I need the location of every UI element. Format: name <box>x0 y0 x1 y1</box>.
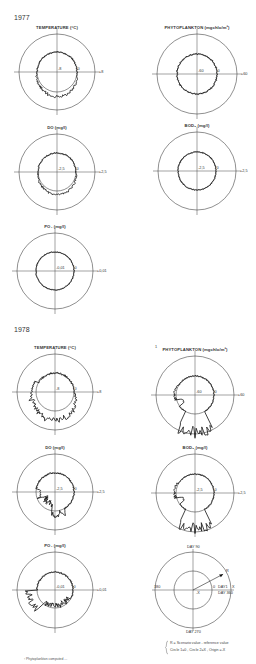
axis-label-negative: -8 <box>56 387 59 391</box>
polar-plot-t78 <box>12 349 98 435</box>
plot-title: PHYTOPLANKTON (mgchlo/m³) <box>162 347 227 352</box>
polar-plot-b78 <box>151 449 239 537</box>
axis-label-zero: 0 <box>75 266 77 270</box>
axis-label-positive: +2,5 <box>99 170 107 174</box>
axis-label-positive: +2,5 <box>238 491 246 495</box>
data-curve <box>25 571 73 611</box>
axis-label-negative: -2,5 <box>198 166 205 170</box>
polar-plot-p78 <box>151 351 239 439</box>
plot-title: PO₄ (mg/l) <box>44 543 66 548</box>
plot-title: PHYTOPLANKTON (mgchlo/m³) <box>164 25 229 30</box>
axis-label-zero: 0 <box>77 167 79 171</box>
axis-label-positive: +2,5 <box>240 169 248 173</box>
legend-day180: 180 <box>154 585 160 589</box>
axis-label-positive: +0,01 <box>97 588 107 592</box>
axis-label-zero: 0 <box>217 166 219 170</box>
axis-label-positive: +60 <box>238 393 244 397</box>
polar-plot-p77 <box>152 29 242 119</box>
axis-label-positive: +8 <box>97 390 101 394</box>
axis-label-negative: -60 <box>198 69 204 73</box>
axis-label-negative: -8 <box>58 67 61 71</box>
plot-title: BOD₅ (mg/l) <box>183 445 208 450</box>
legend-day1: DAY1 <box>218 585 228 589</box>
plot-title: PO₄ (mg/l) <box>44 224 66 229</box>
axis-label-negative: -0,01 <box>56 585 65 589</box>
axis-label-zero: 0 <box>215 488 217 492</box>
plot-title: BOD₅ (mg/l) <box>185 123 210 128</box>
axis-label-zero: 0 <box>75 387 77 391</box>
axis-label-positive: +2,5 <box>97 490 105 494</box>
polar-plot-d78 <box>12 449 98 535</box>
data-curve <box>29 372 77 422</box>
plot-title: DO (mg/l) <box>45 445 65 450</box>
legend-note-2: Circle 1=0 , Circle 2=X , Origin =-X <box>170 648 225 652</box>
axis-label-zero: 0 <box>75 487 77 491</box>
legend-r: R <box>226 569 229 573</box>
axis-label-negative: -2,5 <box>56 487 63 491</box>
plot-title: TEMPERATURE (°C) <box>36 25 78 30</box>
legend-brace <box>166 641 169 654</box>
axis-label-negative: -2,5 <box>196 488 203 492</box>
polar-plot-o77 <box>12 228 98 314</box>
legend-day270: DAY 270 <box>186 630 201 634</box>
axis-label-negative: -2,5 <box>58 167 65 171</box>
plot-title: DO (mg/l) <box>47 125 67 130</box>
axis-label-zero: 0 <box>78 67 80 71</box>
polar-plot-d77 <box>14 129 100 215</box>
axis-label-positive: +0,01 <box>97 269 107 273</box>
footnote-mark: 1 <box>155 345 157 349</box>
axis-label-zero: 0 <box>74 585 76 589</box>
footnote: ¹ Phytoplankton computed ... <box>24 657 67 661</box>
axis-label-negative: -60 <box>196 390 202 394</box>
data-curve <box>174 474 215 534</box>
polar-plot-b77 <box>153 127 241 215</box>
polar-plots <box>0 0 256 664</box>
polar-plot-t77 <box>14 29 100 115</box>
axis-label-positive: +8 <box>99 70 103 74</box>
legend-day90: DAY 90 <box>187 545 200 549</box>
legend-x: X <box>232 585 235 589</box>
polar-plot-o78 <box>12 547 98 633</box>
legend-day360: DAY 360 <box>218 591 233 595</box>
axis-label-zero: 0 <box>218 69 220 73</box>
legend-zero: 0 <box>213 585 215 589</box>
legend-neg-x: -X <box>196 591 200 595</box>
legend-note-1: R = Scenario value - reference value <box>170 641 228 645</box>
legend-diagram <box>152 549 234 631</box>
axis-label-negative: -0,01 <box>56 266 65 270</box>
plot-title: TEMPERATURE (°C) <box>34 345 76 350</box>
axis-label-zero: 0 <box>215 390 217 394</box>
axis-label-positive: +60 <box>241 72 247 76</box>
data-curve <box>173 375 214 437</box>
